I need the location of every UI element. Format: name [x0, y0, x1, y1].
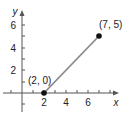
y-axis-label: y — [12, 6, 19, 17]
x-tick-label: 6 — [85, 97, 91, 108]
point-label-a: (2, 0) — [28, 75, 51, 86]
line-segment — [44, 36, 99, 93]
x-tick-label: 2 — [41, 97, 47, 108]
x-axis-label: x — [113, 97, 120, 108]
x-axis — [3, 90, 119, 96]
x-axis-arrow-icon — [113, 91, 119, 96]
y-tick-label: 4 — [10, 43, 16, 54]
x-tick-label: 4 — [63, 97, 69, 108]
y-tick-label: 6 — [10, 20, 16, 31]
point-2-0 — [41, 90, 47, 96]
y-axis-arrow-icon — [20, 10, 25, 16]
y-axis — [20, 10, 26, 112]
chart: 2 4 6 x 2 4 6 y (2, 0) (7, 5) — [0, 0, 123, 115]
chart-svg: 2 4 6 x 2 4 6 y (2, 0) (7, 5) — [0, 0, 123, 115]
y-tick-label: 2 — [10, 65, 16, 76]
point-label-b: (7, 5) — [99, 19, 122, 30]
point-7-5 — [96, 33, 102, 39]
